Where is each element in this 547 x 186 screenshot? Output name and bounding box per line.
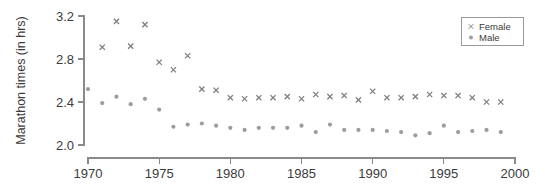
y-tick-label-3.2: 3.2: [56, 9, 74, 24]
series-female: [100, 19, 504, 105]
data-point-female-1998: [484, 99, 489, 104]
data-point-male-1976: [171, 125, 175, 129]
x-tick-label-1980: 1980: [216, 166, 245, 181]
marathon-times-scatter-chart: 2.02.42.83.2Marathon times (in hrs)19701…: [0, 0, 547, 186]
data-point-female-1985: [299, 96, 304, 101]
data-point-male-1998: [484, 128, 488, 132]
data-point-female-1984: [285, 94, 290, 99]
legend-label-male: Male: [479, 32, 500, 43]
data-point-male-1971: [100, 101, 104, 105]
data-point-female-1972: [114, 19, 119, 24]
data-point-male-1994: [428, 131, 432, 135]
data-point-female-1996: [455, 93, 460, 98]
data-point-male-1996: [456, 130, 460, 134]
data-point-female-1997: [470, 95, 475, 100]
data-point-female-1992: [399, 95, 404, 100]
data-point-male-1985: [299, 124, 303, 128]
data-point-female-1975: [157, 60, 162, 65]
data-point-male-1981: [242, 128, 246, 132]
data-point-male-1995: [442, 124, 446, 128]
data-point-male-1982: [257, 126, 261, 130]
data-points-group: [86, 19, 503, 138]
data-point-female-1989: [356, 97, 361, 102]
data-point-female-1978: [199, 87, 204, 92]
x-tick-label-1970: 1970: [74, 166, 103, 181]
data-point-female-1976: [171, 67, 176, 72]
data-point-male-1974: [143, 97, 147, 101]
data-point-male-1980: [228, 126, 232, 130]
x-tick-label-1990: 1990: [358, 166, 387, 181]
data-point-male-1977: [186, 122, 190, 126]
data-point-male-1988: [342, 128, 346, 132]
series-male: [86, 87, 503, 137]
data-point-male-1997: [470, 129, 474, 133]
data-point-female-1995: [441, 93, 446, 98]
x-tick-label-1975: 1975: [145, 166, 174, 181]
data-point-male-1978: [200, 121, 204, 125]
data-point-male-1970: [86, 87, 90, 91]
data-point-female-1993: [413, 94, 418, 99]
legend-dot-marker-icon: [469, 36, 473, 40]
data-point-female-1981: [242, 96, 247, 101]
y-tick-label-2.4: 2.4: [56, 95, 74, 110]
data-point-female-1990: [370, 89, 375, 94]
x-tick-label-2000: 2000: [501, 166, 530, 181]
data-point-male-1993: [413, 133, 417, 137]
data-point-female-1999: [498, 99, 503, 104]
data-point-female-1971: [100, 45, 105, 50]
data-point-male-1990: [371, 128, 375, 132]
x-tick-label-1985: 1985: [287, 166, 316, 181]
data-point-female-1979: [214, 88, 219, 93]
data-point-female-1973: [128, 44, 133, 49]
data-point-female-1988: [342, 93, 347, 98]
data-point-female-1983: [270, 95, 275, 100]
data-point-male-1979: [214, 124, 218, 128]
y-axis-line: [79, 16, 84, 145]
data-point-male-1972: [114, 95, 118, 99]
data-point-female-1982: [256, 95, 261, 100]
data-point-male-1991: [385, 129, 389, 133]
data-point-male-1986: [314, 130, 318, 134]
data-point-female-1994: [427, 92, 432, 97]
data-point-female-1991: [384, 95, 389, 100]
legend-label-female: Female: [479, 21, 511, 32]
y-tick-label-2.0: 2.0: [56, 138, 74, 153]
data-point-male-1983: [271, 126, 275, 130]
data-point-female-1980: [228, 95, 233, 100]
data-point-female-1974: [142, 22, 147, 27]
y-axis-title: Marathon times (in hrs): [14, 16, 28, 145]
data-point-male-1984: [285, 126, 289, 130]
data-point-male-1989: [356, 128, 360, 132]
data-point-male-1999: [499, 130, 503, 134]
data-point-male-1992: [399, 130, 403, 134]
x-tick-label-1995: 1995: [429, 166, 458, 181]
chart-canvas: 2.02.42.83.2Marathon times (in hrs)19701…: [0, 0, 547, 186]
data-point-male-1973: [129, 102, 133, 106]
data-point-female-1986: [313, 92, 318, 97]
data-point-female-1987: [327, 94, 332, 99]
data-point-male-1987: [328, 122, 332, 126]
data-point-male-1975: [157, 107, 161, 111]
data-point-female-1977: [185, 53, 190, 58]
y-tick-label-2.8: 2.8: [56, 52, 74, 67]
